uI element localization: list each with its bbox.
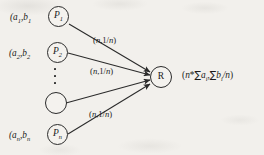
node-pn-label: Pn [53,129,62,140]
coord-label-p1: (a1,b1 [10,13,31,24]
vertical-ellipsis-icon [54,68,56,84]
node-p2-label: P2 [53,47,62,58]
edge-label-pn: (n,1/n) [89,110,112,119]
result-formula: (n*∑ai,∑bi/n) [182,70,233,82]
node-blank[interactable] [45,92,67,114]
coord-label-pn: (an,bn [9,131,30,142]
edge-label-middle: (n,1/n) [90,67,113,76]
node-pn[interactable]: Pn [47,124,68,145]
ellipsis-dot [54,68,56,70]
node-p1[interactable]: P1 [48,6,69,27]
node-result-r-label: R [158,72,164,82]
coord-label-p2: (a2,b2 [9,49,30,60]
ellipsis-dot [54,82,56,84]
node-p1-label: P1 [54,11,63,22]
ellipsis-dot [54,75,56,77]
node-p2[interactable]: P2 [47,42,68,63]
edge-label-p1: (n,1/n) [93,36,116,45]
node-result-r[interactable]: R [150,66,172,88]
edge-p1-to-r [69,24,150,72]
diagram-canvas: P1 (a1,b1 P2 (a2,b2 Pn (an,bn R (n,1/n) [0,0,264,155]
